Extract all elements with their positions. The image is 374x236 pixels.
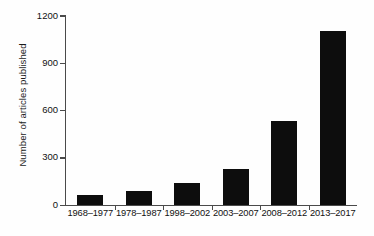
bar-3[interactable] bbox=[223, 169, 249, 205]
y-tick-mark-0 bbox=[60, 205, 65, 206]
y-tick-mark-1200 bbox=[60, 15, 65, 16]
bar-1[interactable] bbox=[126, 191, 152, 205]
bar-0[interactable] bbox=[77, 195, 103, 205]
y-tick-label-0: 0 bbox=[18, 200, 58, 210]
x-axis-labels: 1968–1977 1978–1987 1998–2002 2003–2007 … bbox=[56, 207, 366, 221]
bars-layer bbox=[66, 16, 357, 205]
y-tick-mark-300 bbox=[60, 157, 65, 158]
bar-chart: Number of articles published 1200 900 60… bbox=[0, 0, 374, 236]
bar-5[interactable] bbox=[320, 31, 346, 205]
bar-2[interactable] bbox=[174, 183, 200, 205]
bar-4[interactable] bbox=[271, 121, 297, 205]
x-label-5: 2013–2017 bbox=[301, 207, 365, 220]
y-tick-label-600: 600 bbox=[18, 105, 58, 115]
y-tick-mark-600 bbox=[60, 110, 65, 111]
y-tick-label-900: 900 bbox=[18, 58, 58, 68]
y-tick-label-1200: 1200 bbox=[18, 11, 58, 21]
y-tick-label-300: 300 bbox=[18, 152, 58, 162]
y-tick-mark-900 bbox=[60, 63, 65, 64]
